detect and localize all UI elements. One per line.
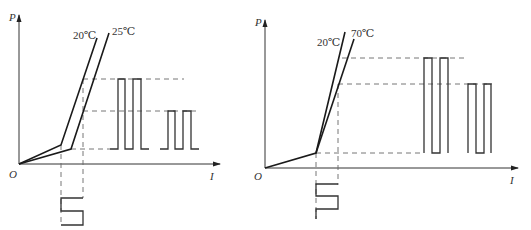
left-output-wave-25c — [160, 111, 199, 149]
right-input-current-wave — [316, 184, 338, 219]
right-curve-70c — [316, 39, 354, 153]
pi-curve-diagram: P I O 20℃ 25℃ P I O 20℃ — [0, 0, 531, 230]
right-output-wave-70c — [468, 84, 491, 153]
right-figure: P I O 20℃ 70℃ — [254, 16, 518, 219]
right-output-wave-20c — [424, 58, 448, 153]
right-curve-20c-label: 20℃ — [317, 36, 340, 48]
left-curve-25c-label: 25℃ — [112, 25, 135, 37]
right-curve-70c-label: 70℃ — [351, 27, 374, 39]
left-input-current-wave — [61, 198, 83, 225]
left-origin-label: O — [9, 168, 17, 180]
right-origin-label: O — [254, 170, 262, 182]
right-x-axis-label: I — [509, 174, 515, 186]
left-output-wave-20c — [110, 79, 149, 149]
left-curve-20c — [19, 38, 97, 164]
left-x-axis-label: I — [209, 170, 215, 182]
left-y-axis-label: P — [8, 11, 16, 23]
right-y-axis-label: P — [254, 16, 262, 28]
left-figure: P I O 20℃ 25℃ — [8, 11, 220, 225]
left-curve-20c-label: 20℃ — [73, 29, 96, 41]
left-curve-25c — [19, 33, 109, 164]
